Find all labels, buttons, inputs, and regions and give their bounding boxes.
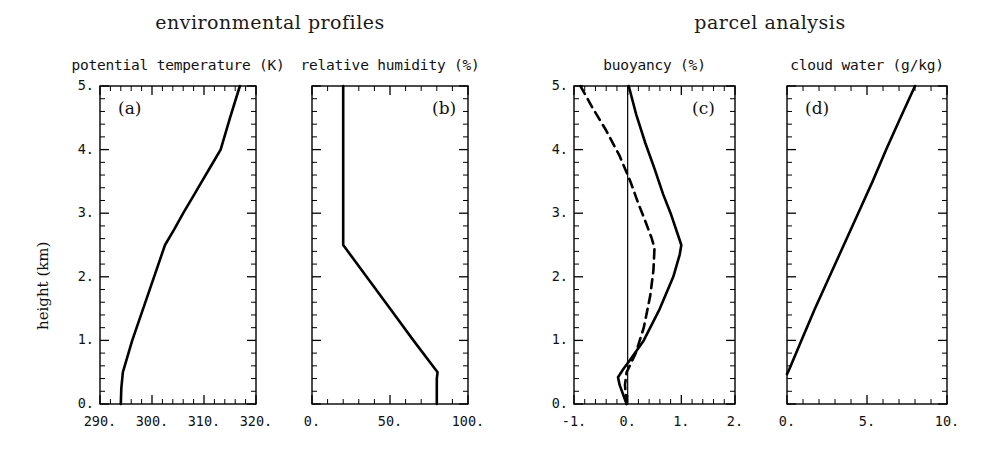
group-title-environmental: environmental profiles — [60, 11, 480, 33]
panel-title-b: relative humidity (%) — [272, 57, 508, 73]
y-tick-label: 1. — [538, 331, 568, 347]
x-tick-label: 100. — [434, 413, 502, 429]
plot-area-b — [310, 84, 470, 406]
group-title-parcel: parcel analysis — [560, 11, 980, 33]
x-tick-label: 10. — [913, 413, 981, 429]
y-tick-label: 4. — [64, 141, 94, 157]
panel-title-c: buoyancy (%) — [534, 57, 775, 73]
y-tick-label: 5. — [538, 77, 568, 93]
y-tick-label: 4. — [538, 141, 568, 157]
plot-frame — [787, 86, 947, 404]
y-axis-label: height (km) — [34, 242, 52, 330]
x-tick-label: 50. — [356, 413, 424, 429]
panel-title-d: cloud water (g/kg) — [747, 57, 987, 73]
panel-title-a: potential temperature (K) — [60, 57, 296, 73]
plot-area-d — [785, 84, 949, 406]
plot-area-c — [572, 84, 737, 406]
series-line-0 — [121, 86, 240, 404]
plot-frame — [100, 86, 256, 404]
y-tick-label: 3. — [538, 204, 568, 220]
y-tick-label: 3. — [64, 204, 94, 220]
x-tick-label: 0. — [753, 413, 821, 429]
y-tick-label: 2. — [64, 268, 94, 284]
y-tick-label: 1. — [64, 331, 94, 347]
y-tick-label: 0. — [64, 395, 94, 411]
y-tick-label: 2. — [538, 268, 568, 284]
series-line-0 — [343, 86, 437, 404]
x-tick-label: 0. — [278, 413, 346, 429]
x-tick-label: 5. — [833, 413, 901, 429]
y-tick-label: 0. — [538, 395, 568, 411]
plot-area-a — [98, 84, 258, 406]
series-line-0 — [787, 86, 915, 374]
plot-frame — [312, 86, 468, 404]
plot-frame — [574, 86, 735, 404]
y-tick-label: 5. — [64, 77, 94, 93]
figure-canvas: environmental profilesparcel analysishei… — [0, 0, 1002, 449]
